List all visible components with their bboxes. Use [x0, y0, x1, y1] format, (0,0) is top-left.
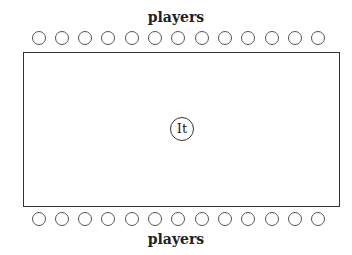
player-circle: [78, 31, 92, 45]
player-circle: [148, 31, 162, 45]
player-circle: [125, 31, 139, 45]
player-circle: [265, 31, 279, 45]
player-circle: [218, 212, 232, 226]
player-circle: [311, 31, 325, 45]
player-circle: [171, 31, 185, 45]
player-circle: [241, 212, 255, 226]
it-player: It: [170, 117, 194, 141]
player-circle: [241, 31, 255, 45]
top-players-label: players: [0, 9, 352, 25]
player-circle: [311, 212, 325, 226]
bottom-player-row: [0, 212, 352, 228]
bottom-players-label: players: [0, 231, 352, 247]
player-circle: [195, 31, 209, 45]
player-circle: [55, 212, 69, 226]
top-player-row: [0, 31, 352, 47]
player-circle: [171, 212, 185, 226]
player-circle: [148, 212, 162, 226]
player-circle: [195, 212, 209, 226]
player-circle: [101, 31, 115, 45]
player-circle: [288, 212, 302, 226]
player-circle: [218, 31, 232, 45]
player-circle: [265, 212, 279, 226]
player-circle: [32, 212, 46, 226]
player-circle: [101, 212, 115, 226]
player-circle: [288, 31, 302, 45]
player-circle: [32, 31, 46, 45]
player-circle: [55, 31, 69, 45]
player-circle: [125, 212, 139, 226]
player-circle: [78, 212, 92, 226]
